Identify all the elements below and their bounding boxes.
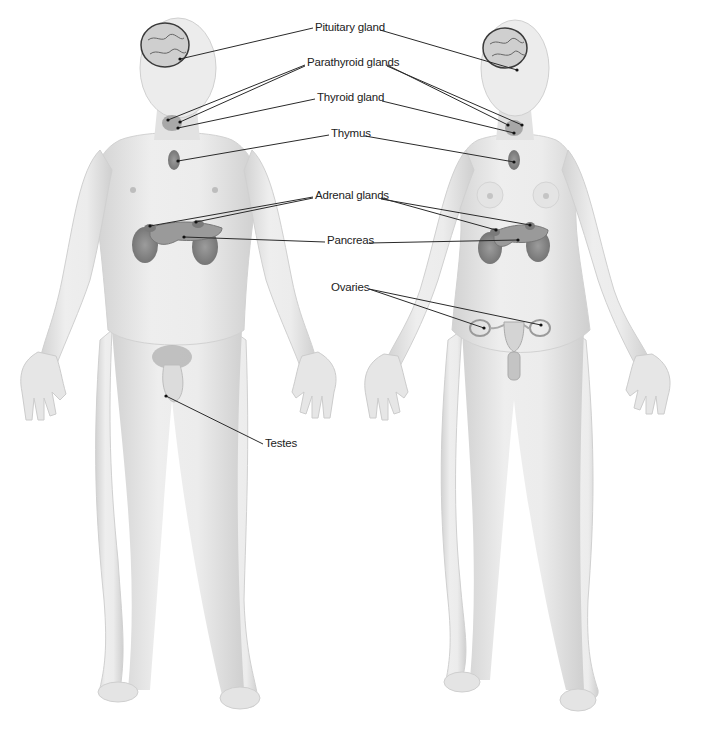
label-testes: Testes (265, 437, 297, 450)
label-thymus: Thymus (331, 127, 371, 140)
label-pancreas: Pancreas (327, 234, 374, 247)
label-parathyroid-glands: Parathyroid glands (307, 56, 399, 69)
endocrine-diagram: Pituitary gland Parathyroid glands Thyro… (0, 0, 703, 748)
label-adrenal-glands: Adrenal glands (315, 189, 389, 202)
label-ovaries: Ovaries (331, 281, 369, 294)
label-pituitary-gland: Pituitary gland (315, 21, 385, 34)
female-figure (365, 20, 670, 711)
figures-illustration (0, 0, 703, 748)
male-figure (21, 18, 336, 709)
label-thyroid-gland: Thyroid gland (317, 91, 384, 104)
